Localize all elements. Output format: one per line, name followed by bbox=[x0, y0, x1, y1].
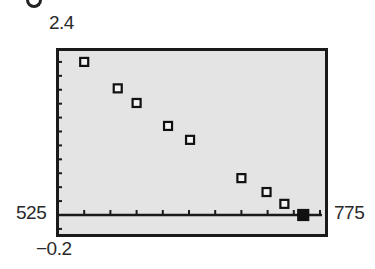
data-point bbox=[133, 99, 141, 107]
cropped-glyph bbox=[26, 0, 42, 8]
y-min-label: −0.2 bbox=[36, 238, 72, 260]
data-point bbox=[186, 136, 194, 144]
y-max-label: 2.4 bbox=[49, 12, 74, 34]
data-point bbox=[80, 58, 88, 66]
data-point bbox=[114, 84, 122, 92]
data-point bbox=[263, 188, 271, 196]
data-point bbox=[280, 200, 288, 208]
scatter-plot bbox=[56, 48, 328, 237]
x-max-label: 775 bbox=[334, 202, 364, 224]
data-point bbox=[237, 174, 245, 182]
x-min-label: 525 bbox=[16, 202, 46, 224]
data-point bbox=[164, 122, 172, 130]
data-point bbox=[298, 210, 308, 220]
